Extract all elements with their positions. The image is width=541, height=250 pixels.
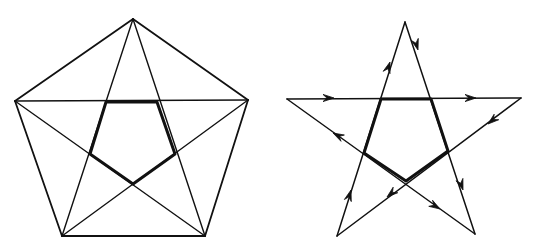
inner-pentagon: [90, 102, 175, 184]
arrowhead-icon: [333, 133, 344, 141]
pentagon-diagonal: [133, 19, 205, 236]
pentagon-edge: [133, 19, 248, 100]
diagram-canvas: [0, 0, 541, 250]
pentagram-edge: [287, 99, 475, 234]
pentagon-edge: [15, 101, 62, 236]
pentagon-with-diagonals-figure: [15, 19, 248, 236]
pentagon-edge: [15, 19, 133, 101]
pentagon-edge: [205, 100, 248, 236]
directed-pentagram-figure: [287, 22, 521, 236]
arrowhead-icon: [383, 62, 390, 74]
arrowhead-icon: [323, 94, 334, 101]
diagram-svg: [0, 0, 541, 250]
inner-pentagon: [364, 99, 448, 181]
